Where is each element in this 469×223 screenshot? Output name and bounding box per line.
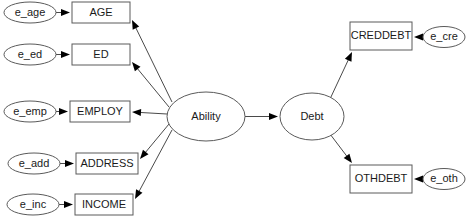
observed-variable-label: OTHDEBT [355, 172, 408, 184]
error-term-label: e_oth [430, 172, 458, 184]
error-term-e_ed[interactable]: e_ed [4, 44, 56, 65]
error-term-label: e_ed [18, 48, 42, 60]
error-term-label: e_cre [430, 30, 458, 42]
error-term-label: e_age [15, 6, 46, 18]
observed-variable-label: AGE [89, 6, 112, 18]
error-term-e_cre[interactable]: e_cre [423, 27, 465, 48]
observed-variable-income[interactable]: INCOME [75, 194, 133, 215]
observed-variable-age[interactable]: AGE [72, 2, 130, 23]
sem-path-diagram: AGEEDEMPLOYADDRESSINCOMECREDDEBTOTHDEBTA… [0, 0, 469, 223]
error-term-label: e_emp [13, 105, 47, 117]
error-term-e_emp[interactable]: e_emp [4, 101, 56, 122]
latent-variable-ability[interactable]: Ability [167, 92, 245, 141]
error-term-e_add[interactable]: e_add [8, 153, 60, 174]
observed-variable-label: INCOME [82, 198, 126, 210]
latent-variable-label: Debt [300, 110, 323, 122]
latent-variable-label: Ability [191, 110, 221, 122]
observed-variable-ed[interactable]: ED [72, 44, 130, 65]
observed-variable-label: EMPLOY [77, 105, 124, 117]
observed-variable-employ[interactable]: EMPLOY [70, 101, 130, 122]
observed-variable-label: ED [93, 48, 108, 60]
observed-variable-label: CREDDEBT [351, 29, 412, 41]
error-term-e_inc[interactable]: e_inc [7, 194, 59, 215]
latent-variable-debt[interactable]: Debt [280, 93, 344, 140]
error-term-label: e_add [19, 157, 50, 169]
observed-variable-label: ADDRESS [80, 157, 133, 169]
error-term-e_age[interactable]: e_age [4, 2, 56, 23]
error-term-e_oth[interactable]: e_oth [423, 169, 465, 190]
observed-variable-creddebt[interactable]: CREDDEBT [350, 22, 412, 50]
observed-variable-address[interactable]: ADDRESS [76, 153, 138, 174]
error-term-label: e_inc [20, 198, 47, 210]
observed-variable-othdebt[interactable]: OTHDEBT [350, 165, 412, 193]
